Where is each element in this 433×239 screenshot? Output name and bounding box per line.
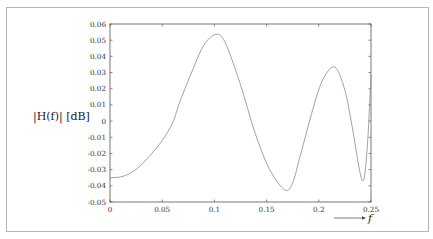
x-tick-label: 0 — [108, 205, 113, 214]
y-tick-label: -0.02 — [88, 149, 106, 158]
x-axis-ticks: 00.050.10.150.20.25 — [108, 24, 380, 214]
plot-area — [110, 24, 371, 202]
y-tick-label: -0.03 — [88, 165, 107, 174]
y-axis-label: |H(f)| [dB] — [33, 110, 90, 124]
y-tick-label: 0.06 — [90, 20, 106, 29]
y-tick-label: -0.05 — [88, 198, 107, 207]
y-tick-label: 0.02 — [90, 84, 106, 93]
y-tick-label: -0.04 — [88, 181, 107, 190]
x-axis-arrow: f — [334, 212, 374, 225]
y-tick-label: 0.05 — [90, 36, 106, 45]
arrow-head-icon — [362, 216, 366, 219]
y-tick-label: 0 — [101, 117, 106, 126]
x-tick-label: 0.2 — [313, 205, 324, 214]
line-chart: 0.060.050.040.030.020.010-0.01-0.02-0.03… — [0, 0, 433, 239]
x-tick-label: 0.1 — [209, 205, 220, 214]
x-tick-label: 0.05 — [154, 205, 170, 214]
response-curve — [110, 34, 371, 190]
y-axis-ticks: 0.060.050.040.030.020.010-0.01-0.02-0.03… — [88, 20, 371, 207]
y-tick-label: -0.01 — [88, 133, 106, 142]
y-tick-label: 0.04 — [90, 52, 106, 61]
y-tick-label: 0.03 — [90, 68, 106, 77]
x-tick-label: 0.15 — [259, 205, 275, 214]
y-tick-label: 0.01 — [90, 100, 106, 109]
y-axis-label-text: |H(f)| [dB] — [33, 110, 90, 124]
